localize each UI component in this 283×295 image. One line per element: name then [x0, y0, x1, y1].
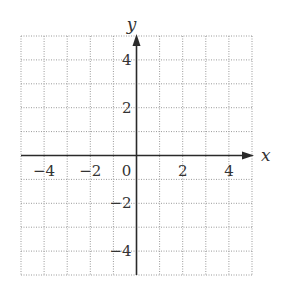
x-tick-label: 2	[178, 162, 188, 180]
tick-labels: xy−4−202442−2−4	[33, 14, 271, 260]
y-axis-label: y	[126, 14, 137, 34]
coordinate-plane: xy−4−202442−2−4	[0, 0, 283, 295]
x-tick-label: 0	[122, 162, 132, 180]
y-tick-label: −2	[109, 194, 131, 212]
y-tick-label: 2	[122, 99, 132, 117]
x-tick-label: −4	[33, 162, 55, 180]
y-tick-label: −4	[109, 242, 131, 260]
x-tick-label: 4	[224, 162, 234, 180]
axes	[21, 34, 254, 275]
y-tick-label: 4	[122, 51, 132, 69]
x-axis-label: x	[261, 145, 271, 165]
x-tick-label: −2	[79, 162, 101, 180]
x-axis-arrow-icon	[242, 152, 254, 160]
